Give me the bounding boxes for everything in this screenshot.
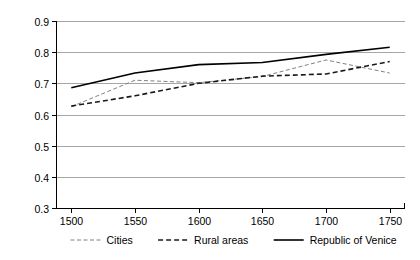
legend-label-rural-areas: Rural areas: [194, 234, 248, 246]
y-axis-tick-label: 0.4: [34, 172, 49, 184]
y-axis-tick-label: 0.3: [34, 203, 49, 215]
chart-legend: CitiesRural areasRepublic of Venice: [71, 234, 397, 246]
x-axis-tick-label: 1750: [379, 215, 403, 227]
plot-area-background: [56, 21, 405, 208]
y-axis-tick-label: 0.5: [34, 141, 49, 153]
x-axis-tick-label: 1550: [124, 215, 148, 227]
y-axis-tick-label: 0.6: [34, 110, 49, 122]
y-axis-tick-labels: 0.30.40.50.60.70.80.9: [34, 16, 49, 215]
x-axis-tick-label: 1500: [60, 215, 84, 227]
x-axis-tick-label: 1650: [251, 215, 275, 227]
x-axis-tick-label: 1600: [188, 215, 212, 227]
line-chart: 0.30.40.50.60.70.80.9 150015501600165017…: [0, 0, 420, 260]
x-axis-tick-label: 1700: [315, 215, 339, 227]
y-axis-tick-label: 0.7: [34, 78, 49, 90]
x-axis-tick-labels: 150015501600165017001750: [60, 215, 403, 227]
y-axis-ticks: [52, 22, 56, 209]
chart-container: 0.30.40.50.60.70.80.9 150015501600165017…: [0, 0, 420, 260]
y-axis-tick-label: 0.8: [34, 47, 49, 59]
y-axis-tick-label: 0.9: [34, 16, 49, 28]
legend-label-republic-of-venice: Republic of Venice: [310, 234, 397, 246]
legend-label-cities: Cities: [107, 234, 133, 246]
